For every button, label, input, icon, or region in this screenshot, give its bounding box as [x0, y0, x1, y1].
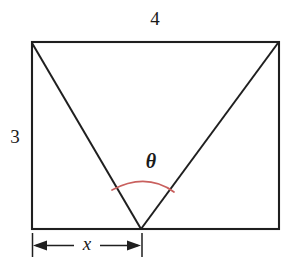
angle-arc: [112, 181, 174, 192]
left-diagonal-line: [32, 43, 141, 229]
dimension-right-arrowhead: [127, 241, 141, 251]
left-side-length-label: 3: [5, 127, 25, 146]
rectangle-outline: [32, 42, 279, 229]
base-segment-length-label: x: [74, 234, 100, 253]
geometry-figure: 4 3 θ x: [0, 0, 295, 262]
angle-theta-label: θ: [139, 151, 163, 171]
dimension-left-arrowhead: [33, 241, 47, 251]
top-side-length-label: 4: [142, 9, 168, 28]
diagram-canvas: [0, 0, 295, 262]
right-diagonal-line: [141, 43, 278, 229]
